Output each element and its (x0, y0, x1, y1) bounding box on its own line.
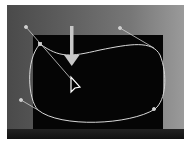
anchor-point[interactable] (39, 43, 42, 46)
anchor-point[interactable] (152, 107, 155, 110)
handle-line (26, 27, 72, 80)
handle-point[interactable] (24, 25, 27, 28)
handle-line (21, 100, 38, 110)
handle-point[interactable] (118, 26, 121, 29)
handle-point[interactable] (19, 98, 22, 101)
down-arrow-icon (64, 26, 80, 66)
pointer-arrow-icon (71, 77, 80, 92)
bezier-path-overlay (0, 0, 191, 144)
bezier-path[interactable] (30, 44, 165, 122)
